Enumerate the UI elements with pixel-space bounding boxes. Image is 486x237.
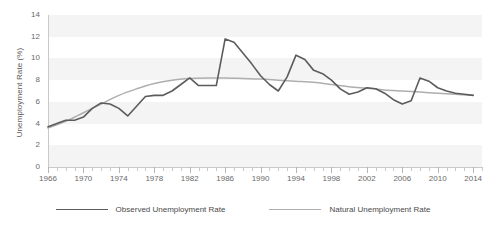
- x-tick-minor: [420, 167, 421, 171]
- x-tick-minor: [482, 167, 483, 171]
- x-tick-minor: [207, 167, 208, 171]
- x-tick-minor: [305, 167, 306, 171]
- x-tick-label: 1994: [287, 175, 305, 183]
- x-tick-minor: [110, 167, 111, 171]
- x-tick-label: 1990: [252, 175, 270, 183]
- legend-label: Natural Unemployment Rate: [329, 205, 430, 214]
- x-tick-minor: [137, 167, 138, 171]
- y-tick-label: 14: [14, 11, 40, 19]
- unemployment-line-chart: Unemployment Rate (%) 02468101214 196619…: [0, 0, 486, 237]
- x-tick-label: 1982: [181, 175, 199, 183]
- x-tick-minor: [429, 167, 430, 171]
- x-tick-major: [119, 167, 120, 173]
- x-tick-minor: [287, 167, 288, 171]
- x-tick-minor: [163, 167, 164, 171]
- y-tick-label: 6: [14, 98, 40, 106]
- y-tick-label: 4: [14, 120, 40, 128]
- y-tick-label: 0: [14, 163, 40, 171]
- x-tick-minor: [145, 167, 146, 171]
- plot-area: [48, 15, 482, 167]
- x-tick-minor: [92, 167, 93, 171]
- x-tick-minor: [181, 167, 182, 171]
- x-tick-major: [296, 167, 297, 173]
- x-tick-label: 2006: [393, 175, 411, 183]
- legend-label: Observed Unemployment Rate: [116, 205, 226, 214]
- y-axis-tick-labels: 02468101214: [14, 15, 40, 167]
- x-tick-minor: [447, 167, 448, 171]
- x-tick-label: 1970: [75, 175, 93, 183]
- legend-line-icon: [56, 209, 108, 210]
- natural-rate-line: [48, 78, 473, 128]
- x-tick-minor: [411, 167, 412, 171]
- x-tick-minor: [57, 167, 58, 171]
- x-tick-minor: [376, 167, 377, 171]
- x-tick-label: 1978: [145, 175, 163, 183]
- x-tick-minor: [349, 167, 350, 171]
- x-tick-major: [225, 167, 226, 173]
- x-tick-minor: [358, 167, 359, 171]
- x-tick-major: [367, 167, 368, 173]
- y-tick-label: 12: [14, 33, 40, 41]
- x-tick-minor: [243, 167, 244, 171]
- x-tick-minor: [66, 167, 67, 171]
- x-tick-minor: [128, 167, 129, 171]
- x-tick-minor: [199, 167, 200, 171]
- legend-item[interactable]: Observed Unemployment Rate: [56, 205, 226, 214]
- x-tick-minor: [464, 167, 465, 171]
- chart-legend: Observed Unemployment RateNatural Unempl…: [0, 205, 486, 214]
- legend-line-icon: [269, 209, 321, 210]
- y-tick-label: 2: [14, 141, 40, 149]
- x-tick-major: [473, 167, 474, 173]
- y-tick-label: 8: [14, 76, 40, 84]
- x-tick-label: 2014: [464, 175, 482, 183]
- x-tick-minor: [252, 167, 253, 171]
- x-tick-minor: [172, 167, 173, 171]
- x-tick-minor: [278, 167, 279, 171]
- x-tick-minor: [75, 167, 76, 171]
- x-tick-minor: [323, 167, 324, 171]
- x-tick-minor: [314, 167, 315, 171]
- x-tick-minor: [234, 167, 235, 171]
- legend-item[interactable]: Natural Unemployment Rate: [269, 205, 430, 214]
- x-tick-minor: [340, 167, 341, 171]
- x-tick-major: [190, 167, 191, 173]
- x-tick-major: [83, 167, 84, 173]
- x-tick-minor: [101, 167, 102, 171]
- x-tick-minor: [269, 167, 270, 171]
- x-tick-label: 1974: [110, 175, 128, 183]
- x-tick-label: 1986: [216, 175, 234, 183]
- x-tick-minor: [216, 167, 217, 171]
- x-tick-label: 1998: [323, 175, 341, 183]
- y-tick-label: 10: [14, 54, 40, 62]
- x-tick-label: 1966: [39, 175, 57, 183]
- series-lines: [48, 15, 482, 167]
- x-tick-major: [261, 167, 262, 173]
- x-tick-minor: [385, 167, 386, 171]
- x-tick-major: [331, 167, 332, 173]
- x-tick-label: 2010: [429, 175, 447, 183]
- observed-rate-line: [48, 39, 473, 127]
- x-tick-label: 2002: [358, 175, 376, 183]
- x-tick-major: [154, 167, 155, 173]
- x-axis-tick-labels: 1966197019741978198219861990199419982002…: [48, 175, 482, 189]
- x-axis-ticks: [48, 167, 482, 174]
- x-tick-minor: [393, 167, 394, 171]
- x-tick-major: [48, 167, 49, 173]
- x-tick-minor: [455, 167, 456, 171]
- x-tick-major: [402, 167, 403, 173]
- x-tick-major: [438, 167, 439, 173]
